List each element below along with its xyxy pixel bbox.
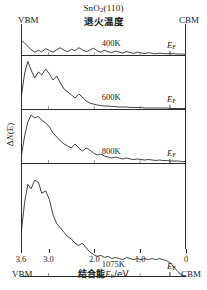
y-axis-n: N xyxy=(5,134,15,140)
y-axis-energy-arg: (E) xyxy=(5,123,15,135)
x-axis-tick-label: 3.6 xyxy=(16,254,27,264)
fermi-level-label-400k: EF xyxy=(167,40,176,50)
figure-title-compound: SnO2(110) xyxy=(0,4,207,14)
x-axis-tick xyxy=(21,249,22,253)
x-axis-tick-label: 0 xyxy=(184,254,188,264)
spectra-panel-stack: 400KEF600KEF800KEF1075KEF xyxy=(21,28,186,248)
compound-base: SnO xyxy=(83,3,100,13)
x-axis-tick-label: 2.0 xyxy=(89,254,100,264)
y-axis-delta: Δ xyxy=(5,140,15,146)
panel-temperature-label-600k: 600K xyxy=(102,92,121,102)
x-axis-tick-label: 1.0 xyxy=(135,254,146,264)
fermi-level-subscript: F xyxy=(172,97,176,104)
spectrum-panel-400k: 400KEF xyxy=(21,28,186,56)
panel-temperature-label-400k: 400K xyxy=(102,38,121,48)
x-axis-unit: /eV xyxy=(114,269,129,279)
cbm-label-bottom: CBM xyxy=(181,270,201,279)
panel-temperature-label-1075k: 1075K xyxy=(102,259,125,269)
x-axis-tick xyxy=(94,249,95,253)
cbm-label-top: CBM xyxy=(179,16,199,25)
x-axis-tick xyxy=(186,249,187,253)
fermi-level-label-800k: EF xyxy=(167,148,176,158)
x-axis-tick xyxy=(140,249,141,253)
spectrum-panel-800k: 800KEF xyxy=(21,110,186,164)
xps-difference-spectra-figure: SnO2(110) 退火温度 VBM CBM ΔN(E) 400KEF600KE… xyxy=(0,0,207,290)
x-axis-tick xyxy=(49,249,50,253)
fermi-level-label-600k: EF xyxy=(167,94,176,104)
spectrum-panel-600k: 600KEF xyxy=(21,56,186,110)
y-axis-label: ΔN(E) xyxy=(6,107,15,163)
x-axis-label-cn: 结合能 xyxy=(78,269,105,279)
fermi-level-subscript: F xyxy=(172,151,176,158)
compound-facet: (110) xyxy=(103,3,123,13)
panel-temperature-label-800k: 800K xyxy=(102,146,121,156)
fermi-level-subscript: F xyxy=(172,43,176,50)
x-axis-tick-label: 3.0 xyxy=(43,254,54,264)
vbm-label-bottom: VBM xyxy=(12,270,33,279)
